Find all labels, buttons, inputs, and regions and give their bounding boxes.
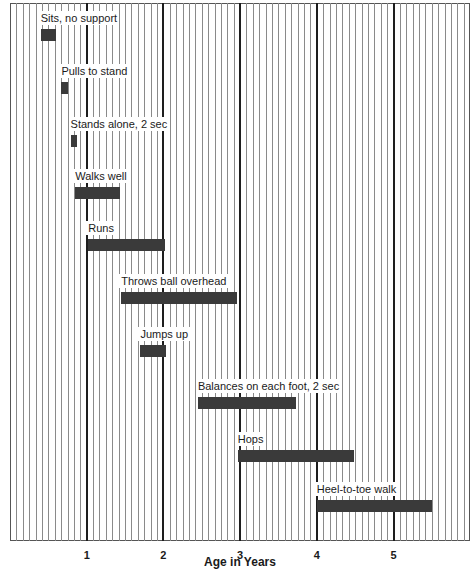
x-axis-label: Age in Years	[204, 555, 276, 569]
month-gridline	[74, 3, 75, 541]
month-gridline	[374, 3, 375, 541]
month-gridline	[234, 3, 235, 541]
month-gridline	[99, 3, 100, 541]
x-tick-label: 2	[160, 549, 166, 561]
month-gridline	[131, 3, 132, 541]
x-tick-label: 1	[84, 549, 90, 561]
x-tick-label: 5	[390, 549, 396, 561]
month-gridline	[176, 3, 177, 541]
month-gridline	[425, 3, 426, 541]
month-gridline	[29, 3, 30, 541]
month-gridline	[119, 3, 120, 541]
milestone-label: Pulls to stand	[59, 64, 129, 78]
milestone-bar	[140, 345, 165, 357]
month-gridline	[48, 3, 49, 541]
month-gridline	[157, 3, 158, 541]
milestone-label: Sits, no support	[39, 11, 119, 25]
month-gridline	[457, 3, 458, 541]
milestone-label: Jumps up	[138, 327, 190, 341]
month-gridline	[112, 3, 113, 541]
month-gridline	[438, 3, 439, 541]
month-gridline	[355, 3, 356, 541]
month-gridline	[55, 3, 56, 541]
milestone-label: Walks well	[73, 169, 129, 183]
month-gridline	[445, 3, 446, 541]
x-tick-label: 4	[314, 549, 320, 561]
month-gridline	[362, 3, 363, 541]
month-gridline	[368, 3, 369, 541]
year-gridline	[162, 3, 164, 541]
month-gridline	[68, 3, 69, 541]
month-gridline	[227, 3, 228, 541]
month-gridline	[464, 3, 465, 541]
milestone-label: Runs	[86, 221, 116, 235]
month-gridline	[36, 3, 37, 541]
month-gridline	[144, 3, 145, 541]
month-gridline	[151, 3, 152, 541]
milestone-bar	[88, 239, 165, 251]
month-gridline	[183, 3, 184, 541]
year-gridline	[393, 3, 395, 541]
milestone-bar	[71, 135, 77, 147]
month-gridline	[400, 3, 401, 541]
milestone-bar	[121, 292, 237, 304]
month-gridline	[215, 3, 216, 541]
month-gridline	[42, 3, 43, 541]
month-gridline	[387, 3, 388, 541]
month-gridline	[16, 3, 17, 541]
milestone-bar	[238, 450, 355, 462]
milestone-chart: Sits, no supportPulls to standStands alo…	[0, 0, 476, 571]
month-gridline	[195, 3, 196, 541]
milestone-bar	[41, 29, 56, 41]
month-gridline	[80, 3, 81, 541]
milestone-label: Stands alone, 2 sec	[69, 117, 170, 131]
milestone-bar	[75, 187, 119, 199]
year-gridline	[86, 3, 88, 541]
month-gridline	[451, 3, 452, 541]
month-gridline	[432, 3, 433, 541]
month-gridline	[23, 3, 24, 541]
milestone-bar	[61, 82, 67, 94]
month-gridline	[413, 3, 414, 541]
milestone-label: Throws ball overhead	[119, 274, 228, 288]
month-gridline	[125, 3, 126, 541]
month-gridline	[138, 3, 139, 541]
milestone-bar	[198, 397, 296, 409]
month-gridline	[419, 3, 420, 541]
month-gridline	[406, 3, 407, 541]
month-gridline	[221, 3, 222, 541]
month-gridline	[189, 3, 190, 541]
milestone-bar	[317, 500, 432, 512]
month-gridline	[208, 3, 209, 541]
month-gridline	[202, 3, 203, 541]
month-gridline	[106, 3, 107, 541]
milestone-label: Balances on each foot, 2 sec	[196, 379, 341, 393]
month-gridline	[381, 3, 382, 541]
month-gridline	[93, 3, 94, 541]
month-gridline	[170, 3, 171, 541]
milestone-label: Hops	[236, 432, 266, 446]
milestone-label: Heel-to-toe walk	[315, 482, 398, 496]
